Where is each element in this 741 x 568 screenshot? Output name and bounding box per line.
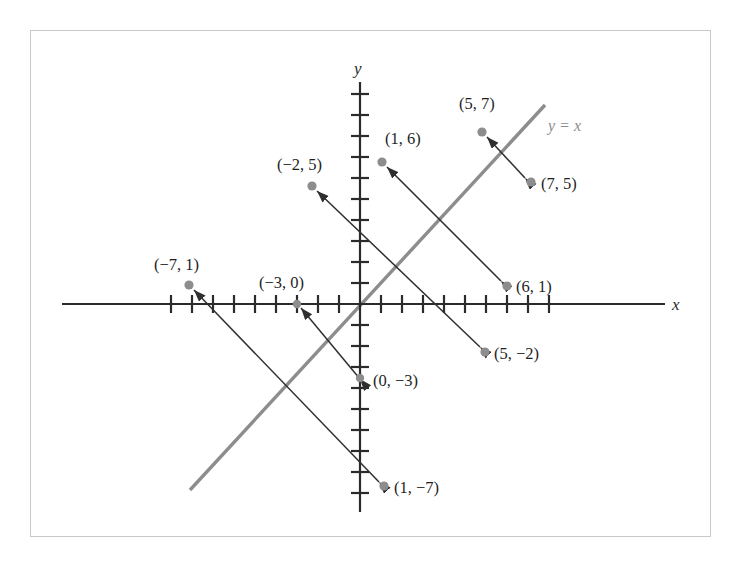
- figure-root: y = x x: [0, 0, 741, 568]
- point-5-neg2[interactable]: [480, 347, 489, 356]
- point-neg7-1[interactable]: [184, 280, 193, 289]
- point-labels: (5, 7) (7, 5) (1, 6) (6, 1) (−2, 5) (5, …: [154, 94, 577, 497]
- label-point-neg7-1: (−7, 1): [154, 255, 199, 274]
- point-1-6[interactable]: [377, 157, 386, 166]
- point-neg3-0[interactable]: [293, 300, 301, 308]
- point-0-neg3[interactable]: [356, 374, 364, 382]
- point-5-7[interactable]: [477, 127, 486, 136]
- y-axis-group: y: [351, 59, 369, 512]
- coordinate-plane: y = x x: [0, 0, 741, 568]
- arrow-6-1-to-1-6: [387, 167, 501, 281]
- point-1-neg7[interactable]: [379, 481, 388, 490]
- label-point-5-7: (5, 7): [459, 94, 495, 113]
- label-point-6-1: (6, 1): [516, 277, 552, 296]
- label-point-7-5: (7, 5): [541, 174, 577, 193]
- label-point-1-6: (1, 6): [385, 129, 421, 148]
- point-7-5[interactable]: [526, 177, 535, 186]
- label-point-5-neg2: (5, −2): [494, 344, 539, 363]
- identity-line-label: y = x: [546, 117, 581, 135]
- label-point-1-neg7: (1, −7): [394, 478, 439, 497]
- label-point-neg3-0: (−3, 0): [259, 273, 304, 292]
- arrow-7-5-to-5-7: [487, 137, 525, 178]
- point-neg2-5[interactable]: [307, 181, 316, 190]
- arrow-0-neg3-to-neg3-0: [301, 308, 360, 379]
- point-6-1[interactable]: [502, 281, 511, 290]
- y-axis-label: y: [352, 59, 362, 78]
- identity-line-y-equals-x: [190, 105, 545, 490]
- label-point-neg2-5: (−2, 5): [277, 155, 322, 174]
- x-axis-label: x: [671, 295, 680, 314]
- x-axis-group: x: [62, 295, 680, 314]
- label-point-0-neg3: (0, −3): [373, 371, 418, 390]
